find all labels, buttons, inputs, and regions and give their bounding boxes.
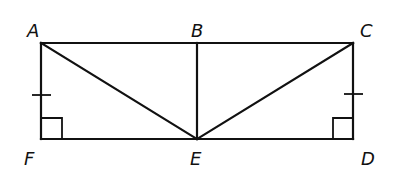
segment-CE xyxy=(197,43,353,139)
label-D: D xyxy=(361,148,375,169)
right-angle-marker-D xyxy=(333,118,353,139)
label-E: E xyxy=(190,148,202,169)
geometry-diagram: A B C F E D xyxy=(0,0,393,171)
label-F: F xyxy=(24,148,35,169)
label-C: C xyxy=(360,20,373,41)
label-B: B xyxy=(191,20,203,41)
right-angle-marker-F xyxy=(41,118,62,139)
segment-AE xyxy=(41,43,197,139)
label-A: A xyxy=(26,20,39,41)
